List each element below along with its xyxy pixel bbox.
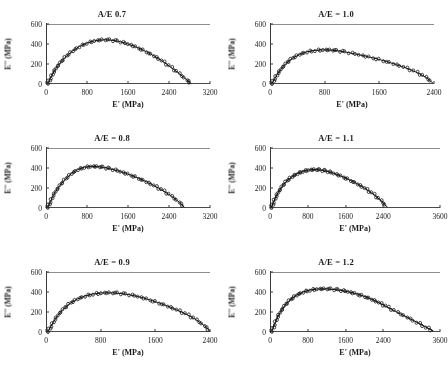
y-axis-tick-label: 200 — [255, 307, 266, 316]
data-series-canvas — [46, 148, 210, 208]
data-series-canvas — [270, 148, 440, 208]
x-axis-tick-label: 800 — [302, 212, 313, 221]
data-point-markers — [46, 165, 183, 210]
y-axis-tick-label: 0 — [262, 204, 266, 213]
x-axis-label: E' (MPa) — [270, 348, 440, 357]
data-series-canvas — [46, 272, 210, 332]
data-series-canvas — [270, 272, 440, 332]
y-axis-tick-label: 600 — [255, 268, 266, 277]
plot-area: 02004006000800160024003200 — [46, 148, 210, 208]
x-axis-tick-label: 0 — [44, 212, 48, 221]
chart-panel-inner: A/E = 1.0E'' (MPa)E' (MPa)02004006000800… — [224, 0, 448, 124]
x-axis-tick-label: 2400 — [203, 336, 218, 345]
chart-panel: A/E 0.7E'' (MPa)E' (MPa)0200400600080016… — [0, 0, 224, 124]
y-axis-tick-label: 600 — [31, 20, 42, 29]
x-axis-label: E' (MPa) — [270, 100, 434, 109]
y-axis-label: E'' (MPa) — [228, 162, 237, 193]
x-axis-tick-label: 800 — [81, 88, 92, 97]
y-axis-tick-label: 400 — [255, 39, 266, 48]
data-point-markers — [47, 38, 191, 86]
plot-area: 02004006000800160024003200 — [46, 24, 210, 84]
chart-title: A/E 0.7 — [0, 9, 224, 19]
y-axis-tick-label: 400 — [255, 163, 266, 172]
y-axis-tick-label: 0 — [38, 80, 42, 89]
y-axis-tick-label: 0 — [38, 328, 42, 337]
x-axis-tick-label: 1600 — [338, 212, 353, 221]
y-axis-tick-label: 400 — [255, 287, 266, 296]
x-axis-tick-label: 1600 — [372, 88, 387, 97]
y-axis-tick-label: 200 — [31, 183, 42, 192]
data-point-markers — [270, 168, 386, 210]
y-axis-tick-label: 200 — [255, 59, 266, 68]
fit-curve — [48, 166, 185, 207]
y-axis-label: E'' (MPa) — [4, 162, 13, 193]
x-axis-tick-label: 1600 — [121, 212, 136, 221]
x-axis-tick-label: 2400 — [162, 88, 177, 97]
x-axis-tick-label: 0 — [44, 88, 48, 97]
chart-panel: A/E = 1.2E'' (MPa)E' (MPa)02004006000800… — [224, 248, 448, 371]
y-axis-label: E'' (MPa) — [4, 286, 13, 317]
chart-panel-inner: A/E = 0.8E'' (MPa)E' (MPa)02004006000800… — [0, 124, 224, 248]
x-axis-tick-label: 800 — [319, 88, 330, 97]
x-axis-label: E' (MPa) — [46, 100, 210, 109]
data-series-canvas — [46, 24, 210, 84]
y-axis-tick-label: 0 — [262, 80, 266, 89]
data-point-markers — [47, 291, 209, 334]
chart-panel-inner: A/E = 1.1E'' (MPa)E' (MPa)02004006000800… — [224, 124, 448, 248]
chart-title: A/E = 1.0 — [224, 9, 448, 19]
x-axis-tick-label: 1600 — [338, 336, 353, 345]
x-axis-tick-label: 2400 — [376, 212, 391, 221]
y-axis-tick-label: 600 — [255, 20, 266, 29]
chart-panel-inner: A/E = 1.2E'' (MPa)E' (MPa)02004006000800… — [224, 248, 448, 371]
plot-area: 02004006000800160024003600 — [270, 272, 440, 332]
chart-panel: A/E = 1.1E'' (MPa)E' (MPa)02004006000800… — [224, 124, 448, 248]
x-axis-tick-label: 3600 — [433, 336, 448, 345]
y-axis-tick-label: 400 — [31, 287, 42, 296]
x-axis-tick-label: 1600 — [148, 336, 163, 345]
x-axis-tick-label: 3600 — [433, 212, 448, 221]
chart-title: A/E = 0.8 — [0, 133, 224, 143]
y-axis-label: E'' (MPa) — [228, 286, 237, 317]
plot-area: 02004006000800160024003600 — [270, 148, 440, 208]
data-series-canvas — [270, 24, 434, 84]
data-point — [153, 299, 156, 302]
y-axis-tick-label: 600 — [31, 144, 42, 153]
x-axis-tick-label: 800 — [81, 212, 92, 221]
x-axis-tick-label: 2400 — [427, 88, 442, 97]
y-axis-label: E'' (MPa) — [4, 38, 13, 69]
y-axis-tick-label: 0 — [38, 204, 42, 213]
chart-panel-inner: A/E = 0.9E'' (MPa)E' (MPa)02004006000800… — [0, 248, 224, 371]
x-axis-tick-label: 0 — [44, 336, 48, 345]
cole-cole-figure: A/E 0.7E'' (MPa)E' (MPa)0200400600080016… — [0, 0, 448, 371]
x-axis-label: E' (MPa) — [46, 348, 210, 357]
chart-panel: A/E = 1.0E'' (MPa)E' (MPa)02004006000800… — [224, 0, 448, 124]
x-axis-label: E' (MPa) — [270, 224, 440, 233]
x-axis-label: E' (MPa) — [46, 224, 210, 233]
y-axis-tick-label: 200 — [31, 307, 42, 316]
x-axis-tick-label: 0 — [268, 212, 272, 221]
chart-panel: A/E = 0.8E'' (MPa)E' (MPa)02004006000800… — [0, 124, 224, 248]
chart-title: A/E = 1.1 — [224, 133, 448, 143]
chart-panel-inner: A/E 0.7E'' (MPa)E' (MPa)0200400600080016… — [0, 0, 224, 124]
y-axis-tick-label: 200 — [255, 183, 266, 192]
chart-panel: A/E = 0.9E'' (MPa)E' (MPa)02004006000800… — [0, 248, 224, 371]
plot-area: 0200400600080016002400 — [46, 272, 210, 332]
x-axis-tick-label: 800 — [95, 336, 106, 345]
x-axis-tick-label: 3200 — [203, 212, 218, 221]
y-axis-tick-label: 200 — [31, 59, 42, 68]
x-axis-tick-label: 800 — [302, 336, 313, 345]
chart-title: A/E = 0.9 — [0, 257, 224, 267]
y-axis-tick-label: 0 — [262, 328, 266, 337]
y-axis-tick-label: 400 — [31, 163, 42, 172]
fit-curve — [271, 170, 387, 208]
x-axis-tick-label: 2400 — [376, 336, 391, 345]
chart-title: A/E = 1.2 — [224, 257, 448, 267]
plot-area: 0200400600080016002400 — [270, 24, 434, 84]
x-axis-tick-label: 0 — [268, 88, 272, 97]
x-axis-tick-label: 3200 — [203, 88, 218, 97]
y-axis-label: E'' (MPa) — [228, 38, 237, 69]
x-axis-tick-label: 2400 — [162, 212, 177, 221]
y-axis-tick-label: 600 — [255, 144, 266, 153]
x-axis-tick-label: 0 — [268, 336, 272, 345]
y-axis-tick-label: 600 — [31, 268, 42, 277]
